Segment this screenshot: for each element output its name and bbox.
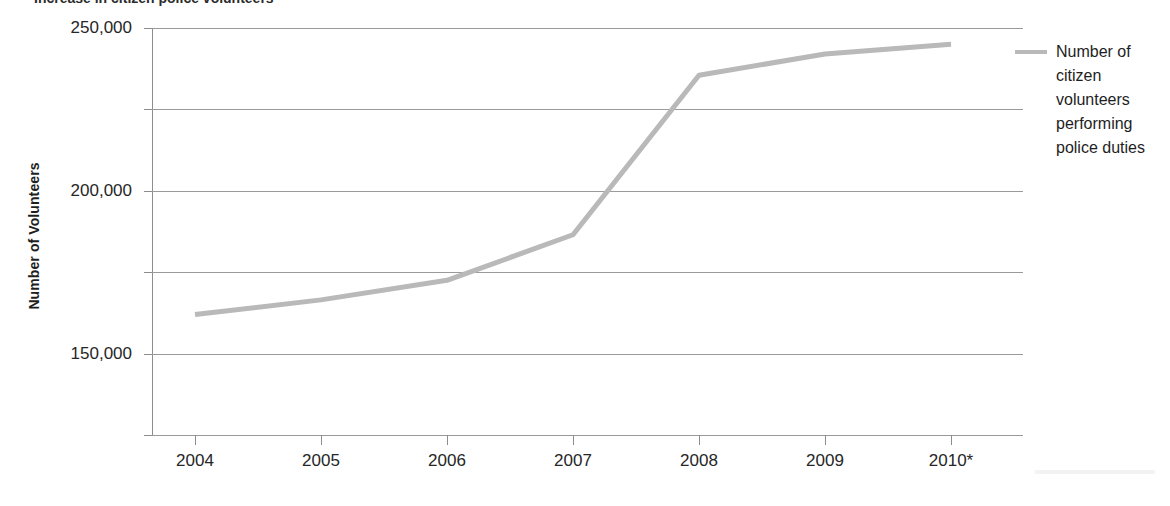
x-axis-tick xyxy=(825,435,826,445)
x-axis-tick-label: 2006 xyxy=(428,451,466,471)
chart-title-text: Increase in citizen police volunteers xyxy=(34,0,364,5)
chart-page: Increase in citizen police volunteers Nu… xyxy=(0,0,1170,506)
series-line-volunteers xyxy=(152,28,1023,435)
x-axis-tick xyxy=(699,435,700,445)
y-axis-tick-label: 200,000 xyxy=(71,181,132,201)
x-axis-tick xyxy=(573,435,574,445)
x-axis-tick xyxy=(321,435,322,445)
series-line-swatch-icon xyxy=(1015,50,1047,54)
x-axis-tick-label: 2004 xyxy=(176,451,214,471)
x-axis-tick-label: 2008 xyxy=(680,451,718,471)
y-axis-tick: 200,000 xyxy=(144,109,152,110)
plot-area: 050,000100,000150,000200,000250,000 2004… xyxy=(152,28,1023,435)
x-axis-tick xyxy=(951,435,952,445)
x-axis-tick-label: 2009 xyxy=(806,451,844,471)
y-axis-tick-label: 250,000 xyxy=(71,18,132,38)
y-axis-tick: 0 xyxy=(144,435,152,436)
scan-edge-artifact xyxy=(1035,470,1155,474)
series-polyline xyxy=(195,44,951,314)
legend-item-label: Number of citizen volunteers performing … xyxy=(1056,40,1162,160)
y-axis-tick-label: 150,000 xyxy=(71,344,132,364)
y-axis-title: Number of Volunteers xyxy=(26,136,42,336)
gridline xyxy=(152,435,1023,436)
x-axis-tick-label: 2005 xyxy=(302,451,340,471)
x-axis-tick xyxy=(447,435,448,445)
y-axis-tick: 150,000 xyxy=(144,191,152,192)
x-axis-tick-label: 2010* xyxy=(929,451,973,471)
x-axis-tick-label: 2007 xyxy=(554,451,592,471)
y-axis-tick: 100,000 xyxy=(144,272,152,273)
y-axis-tick: 250,000 xyxy=(144,28,152,29)
chart-title-cropped: Increase in citizen police volunteers xyxy=(34,0,364,9)
x-axis-tick xyxy=(195,435,196,445)
legend: Number of citizen volunteers performing … xyxy=(1015,40,1165,160)
y-axis-tick: 50,000 xyxy=(144,354,152,355)
